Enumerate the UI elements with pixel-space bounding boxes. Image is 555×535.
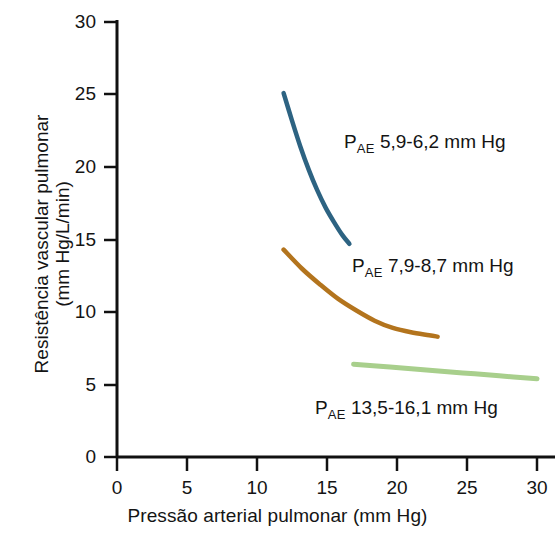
annotation-1-subscript: AE: [357, 141, 375, 156]
x-tick-label-25: 25: [447, 477, 487, 499]
x-tick-label-30: 30: [517, 477, 555, 499]
annotation-pae-7-9-8-7: PAE 7,9-8,7 mm Hg: [352, 255, 514, 280]
y-axis-title-line2: (mm Hg/L/min): [52, 181, 73, 307]
y-axis-title: Resistência vascular pulmonar (mm Hg/L/m…: [26, 24, 78, 464]
annotation-3-value: 13,5-16,1 mm Hg: [346, 397, 498, 418]
x-tick-label-15: 15: [307, 477, 347, 499]
annotation-2-subscript: AE: [365, 265, 383, 280]
annotation-pae-13-5-16-1: PAE 13,5-16,1 mm Hg: [315, 397, 498, 422]
annotation-pae-5-9-6-2: PAE 5,9-6,2 mm Hg: [344, 131, 506, 156]
chart-figure: 30 25 20 15 10 5 0 0 5 10 15 20 25 30 Re…: [0, 0, 555, 535]
x-tick-label-20: 20: [377, 477, 417, 499]
annotation-3-prefix: P: [315, 397, 328, 418]
curve-series-3: [354, 364, 537, 379]
x-tick-label-5: 5: [167, 477, 207, 499]
annotation-2-value: 7,9-8,7 mm Hg: [383, 255, 514, 276]
y-axis-title-line1: Resistência vascular pulmonar: [31, 115, 52, 374]
x-axis-ticks: [117, 457, 537, 471]
annotation-1-prefix: P: [344, 131, 357, 152]
x-tick-label-0: 0: [97, 477, 137, 499]
x-tick-label-10: 10: [237, 477, 277, 499]
annotation-2-prefix: P: [352, 255, 365, 276]
curve-series-1: [284, 93, 350, 244]
x-axis-title: Pressão arterial pulmonar (mm Hg): [0, 505, 555, 527]
annotation-3-subscript: AE: [328, 407, 346, 422]
y-axis-ticks: [104, 22, 117, 457]
annotation-1-value: 5,9-6,2 mm Hg: [375, 131, 506, 152]
